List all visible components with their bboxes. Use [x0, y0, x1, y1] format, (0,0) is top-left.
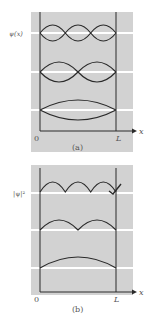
x-axis-label: x — [139, 288, 144, 297]
length-label: L — [115, 134, 121, 143]
particle-in-box-figure: ψ(x) 0 L x (a) |ψ|² 0 L x (b) — [0, 0, 151, 324]
length-label: L — [113, 295, 119, 304]
panel-a: ψ(x) 0 L x (a) — [9, 12, 144, 152]
caption-a: (a) — [72, 143, 83, 152]
y-axis-label-psi: ψ(x) — [9, 30, 23, 38]
x-axis-label: x — [139, 127, 144, 136]
x-axis-arrow-icon — [132, 290, 137, 295]
panel-b: |ψ|² 0 L x (b) — [13, 165, 144, 314]
y-axis-label-psi-squared: |ψ|² — [13, 190, 25, 198]
origin-label: 0 — [34, 134, 39, 143]
x-axis-arrow-icon — [132, 129, 137, 134]
origin-label: 0 — [34, 295, 39, 304]
caption-b: (b) — [72, 305, 83, 314]
